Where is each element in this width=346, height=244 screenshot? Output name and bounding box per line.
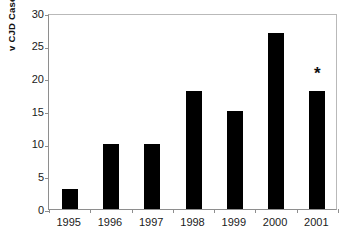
bar-1999 <box>227 111 243 209</box>
x-axis-tick-label: 1995 <box>56 216 80 229</box>
y-axis-tick-mark <box>45 48 49 49</box>
y-axis-tick-label: 0 <box>22 205 44 216</box>
y-axis-tick-mark <box>45 178 49 179</box>
x-axis-tick-mark <box>255 209 256 213</box>
x-axis-tick-mark <box>132 209 133 213</box>
x-axis-tick-mark <box>214 209 215 213</box>
x-axis-tick-label: 1996 <box>98 216 122 229</box>
bar-chart-figure: v CJD Cases 051015202530 * 1995199619971… <box>0 0 346 244</box>
bar-1998 <box>186 91 202 209</box>
plot-area: * <box>48 14 337 210</box>
x-axis-tick-label: 2001 <box>304 216 328 229</box>
bar-1997 <box>144 144 160 209</box>
bar-2001 <box>309 91 325 209</box>
x-axis-tick-mark <box>173 209 174 213</box>
x-axis-tick-mark <box>297 209 298 213</box>
y-axis-title: v CJD Cases <box>5 0 19 76</box>
bar-1996 <box>103 144 119 209</box>
bar-1995 <box>62 189 78 209</box>
x-axis-tick-mark <box>49 209 50 213</box>
x-axis-tick-label: 1999 <box>222 216 246 229</box>
y-axis-tick-label: 25 <box>22 41 44 52</box>
y-axis-tick-label: 30 <box>22 9 44 20</box>
y-axis-tick-mark <box>45 146 49 147</box>
y-axis-tick-mark <box>45 15 49 16</box>
x-axis-tick-label: 1997 <box>139 216 163 229</box>
y-axis-tick-mark <box>45 113 49 114</box>
x-axis-tick-mark <box>90 209 91 213</box>
y-axis-tick-label: 15 <box>22 107 44 118</box>
provisional-data-marker: * <box>314 65 321 82</box>
bar-2000 <box>268 33 284 209</box>
x-axis-tick-label: 1998 <box>180 216 204 229</box>
x-axis-tick-mark <box>338 209 339 213</box>
y-axis-tick-label: 5 <box>22 172 44 183</box>
x-axis-tick-labels: 1995199619971998199920002001 <box>48 216 337 234</box>
y-axis-tick-mark <box>45 80 49 81</box>
y-axis-tick-label: 10 <box>22 139 44 150</box>
y-axis-tick-label: 20 <box>22 74 44 85</box>
y-axis-tick-labels: 051015202530 <box>20 0 44 244</box>
x-axis-tick-label: 2000 <box>263 216 287 229</box>
